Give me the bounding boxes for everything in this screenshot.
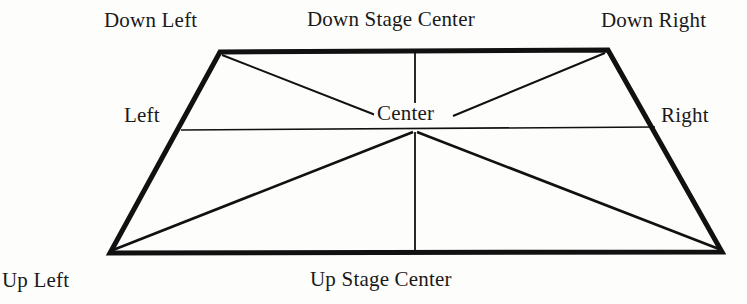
label-left: Left xyxy=(124,105,160,126)
stage-areas-diagram: Down Left Down Stage Center Down Right L… xyxy=(0,0,747,304)
stage-perimeter xyxy=(110,50,722,253)
diagonal-down-left-to-center xyxy=(222,55,378,116)
label-up-stage-center: Up Stage Center xyxy=(310,269,452,290)
horizontal-divider-line xyxy=(181,127,655,130)
label-down-left: Down Left xyxy=(104,10,197,31)
diagonal-down-right-to-center xyxy=(453,53,605,116)
diagonal-up-left-to-center xyxy=(113,132,413,250)
label-right: Right xyxy=(661,105,709,126)
label-up-left: Up Left xyxy=(2,270,69,291)
diagonal-up-right-to-center xyxy=(417,132,719,249)
label-center: Center xyxy=(374,103,437,124)
label-down-stage-center: Down Stage Center xyxy=(307,9,475,30)
stage-outline-svg xyxy=(0,0,747,304)
label-down-right: Down Right xyxy=(601,10,706,31)
